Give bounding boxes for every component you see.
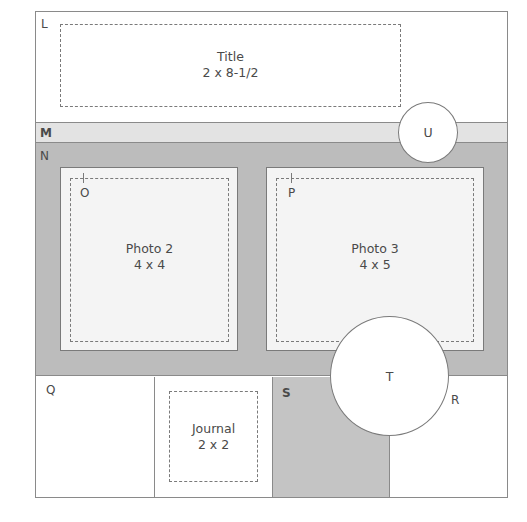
label-t: T [386,369,394,384]
circle-u: U [398,102,458,163]
page-frame-outline [35,11,508,498]
circle-t: T [330,316,449,436]
label-u: U [423,125,432,140]
